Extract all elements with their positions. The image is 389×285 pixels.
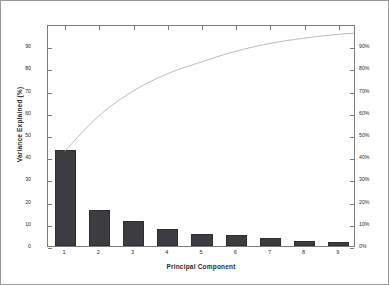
y-tick-label: 60 xyxy=(15,111,31,116)
y-tick-label: 30 xyxy=(15,178,31,183)
x-tick-label: 7 xyxy=(256,250,282,256)
y-tick-label: 70 xyxy=(15,89,31,94)
right-tick-label: 40% xyxy=(359,156,383,161)
cumulative-line-series xyxy=(48,26,354,246)
chart-page: Variance Explained (%) Principal Compone… xyxy=(0,0,389,285)
y-tick-label: 40 xyxy=(15,156,31,161)
right-tick-label: 0% xyxy=(359,244,383,249)
x-tick-label: 3 xyxy=(120,250,146,256)
x-tick-label: 5 xyxy=(188,250,214,256)
y-tick-label: 0 xyxy=(15,244,31,249)
x-axis-title: Principal Component xyxy=(47,263,355,270)
x-tick-label: 8 xyxy=(291,250,317,256)
y-tick-label: 50 xyxy=(15,133,31,138)
plot-area xyxy=(47,25,355,247)
cumulative-line-path xyxy=(65,33,354,151)
right-tick-label: 80% xyxy=(359,67,383,72)
right-tick-label: 10% xyxy=(359,222,383,227)
right-tick-label: 70% xyxy=(359,89,383,94)
y-tick-mark xyxy=(48,248,52,249)
y-tick-label: 80 xyxy=(15,67,31,72)
x-tick-label: 6 xyxy=(222,250,248,256)
y-tick-label: 10 xyxy=(15,222,31,227)
y-axis-title: Variance Explained (%) xyxy=(16,65,23,185)
right-tick-label: 60% xyxy=(359,111,383,116)
x-tick-label: 4 xyxy=(154,250,180,256)
right-tick-label: 20% xyxy=(359,200,383,205)
right-tick-label: 50% xyxy=(359,133,383,138)
right-tick-label: 90% xyxy=(359,45,383,50)
right-tick-label: 30% xyxy=(359,178,383,183)
x-tick-label: 2 xyxy=(85,250,111,256)
right-tick-mark xyxy=(350,248,354,249)
x-tick-label: 9 xyxy=(325,250,351,256)
y-tick-label: 20 xyxy=(15,200,31,205)
y-tick-label: 90 xyxy=(15,45,31,50)
x-tick-label: 1 xyxy=(51,250,77,256)
